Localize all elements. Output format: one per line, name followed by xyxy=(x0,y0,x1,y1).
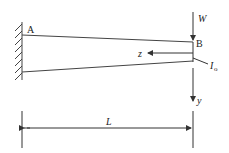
label-I0-subscript: o xyxy=(214,65,218,73)
label-W: W xyxy=(198,13,208,24)
label-y: y xyxy=(196,95,202,106)
label-L: L xyxy=(105,116,112,127)
label-z: z xyxy=(137,48,142,59)
label-A: A xyxy=(27,24,35,35)
label-B: B xyxy=(196,38,203,49)
fixed-wall xyxy=(15,22,22,80)
cantilever-diagram: A B W z y I o L xyxy=(0,0,229,153)
I0-leader xyxy=(193,58,208,64)
